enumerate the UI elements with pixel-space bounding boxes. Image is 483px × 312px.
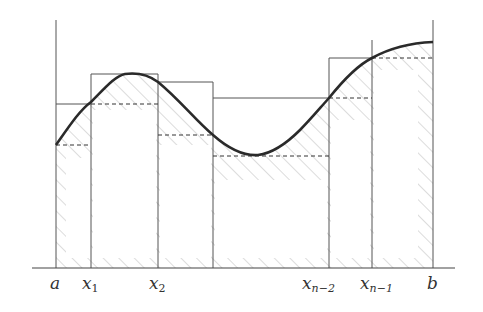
riemann-sum-diagram: a x1 x2 xn−2 xn−1 b	[0, 0, 483, 312]
label-b: b	[427, 273, 438, 293]
label-xn2: xn−2	[302, 273, 335, 295]
hatched-region	[56, 30, 433, 268]
label-x2: x2	[149, 273, 166, 295]
label-xn1: xn−1	[360, 273, 393, 295]
axis-labels: a x1 x2 xn−2 xn−1 b	[50, 273, 438, 295]
label-a: a	[50, 273, 60, 293]
label-x1: x1	[82, 273, 99, 295]
